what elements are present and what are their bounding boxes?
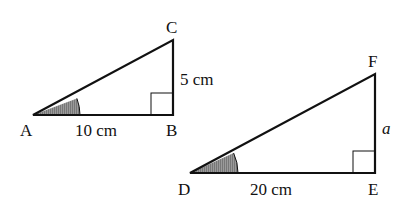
side-de-label: 20 cm xyxy=(250,180,292,199)
vertex-c-label: C xyxy=(166,18,177,37)
triangle-abc: A B C 10 cm 5 cm xyxy=(20,18,214,140)
vertex-a-label: A xyxy=(20,121,33,140)
vertex-f-label: F xyxy=(368,52,377,71)
triangle-abc-outline xyxy=(33,40,173,115)
side-ef-label: a xyxy=(382,119,391,138)
side-ab-label: 10 cm xyxy=(75,121,117,140)
triangle-def-outline xyxy=(190,74,375,173)
vertex-b-label: B xyxy=(166,121,177,140)
right-angle-b-marker xyxy=(151,93,173,115)
vertex-d-label: D xyxy=(178,180,190,199)
similar-triangles-diagram: A B C 10 cm 5 cm D E F 20 cm a xyxy=(0,0,412,216)
right-angle-e-marker xyxy=(353,151,375,173)
angle-a-shading xyxy=(33,98,80,115)
side-bc-label: 5 cm xyxy=(180,70,214,89)
vertex-e-label: E xyxy=(368,180,378,199)
